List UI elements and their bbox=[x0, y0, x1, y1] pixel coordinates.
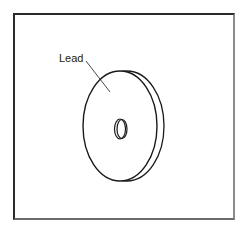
lead-disc-diagram: Lead bbox=[0, 0, 248, 230]
lead-label: Lead bbox=[59, 52, 83, 64]
